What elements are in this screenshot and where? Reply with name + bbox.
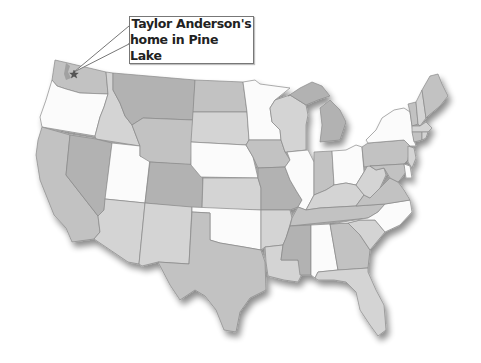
state-florida bbox=[315, 268, 386, 336]
state-rhode-island bbox=[422, 132, 428, 140]
state-maine bbox=[422, 74, 448, 118]
state-new-jersey bbox=[408, 146, 416, 168]
callout-line-1: Taylor Anderson's bbox=[132, 16, 252, 32]
callout-line-2: home in Pine Lake bbox=[130, 32, 253, 64]
state-new-york bbox=[366, 108, 416, 146]
state-north-dakota bbox=[193, 80, 247, 112]
callout-pointer bbox=[74, 26, 129, 72]
state-ohio bbox=[332, 145, 364, 185]
state-south-dakota bbox=[191, 112, 249, 145]
state-kansas bbox=[202, 178, 261, 210]
callout-label: Taylor Anderson's home in Pine Lake bbox=[129, 16, 254, 64]
state-new-mexico bbox=[139, 203, 192, 266]
state-connecticut bbox=[412, 132, 422, 142]
state-pennsylvania bbox=[362, 140, 410, 167]
state-michigan bbox=[320, 100, 346, 142]
